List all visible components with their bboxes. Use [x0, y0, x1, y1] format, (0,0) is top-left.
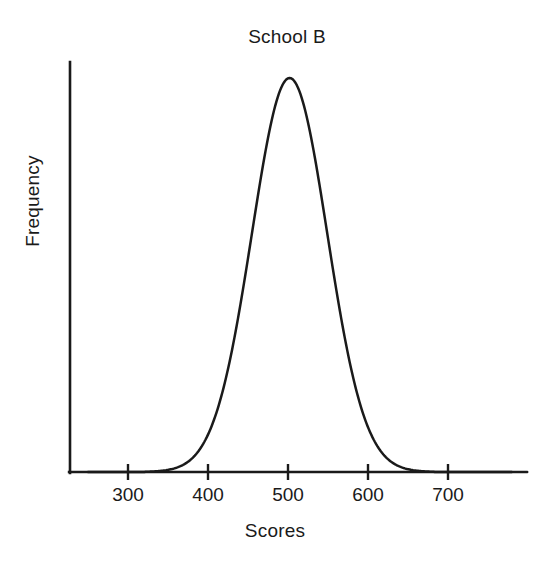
chart-figure: School B Frequency 300 400 500 600 700 S… — [0, 0, 538, 570]
x-tick-label: 400 — [192, 484, 224, 505]
x-axis-tick-labels: 300 400 500 600 700 — [112, 484, 464, 505]
x-tick-label: 300 — [112, 484, 144, 505]
x-tick-label: 500 — [272, 484, 304, 505]
plot-area: 300 400 500 600 700 — [0, 0, 538, 570]
x-axis-label: Scores — [6, 520, 538, 542]
x-tick-label: 600 — [352, 484, 384, 505]
distribution-curve — [88, 78, 527, 472]
x-axis-label-text: Scores — [245, 520, 305, 541]
x-tick-label: 700 — [432, 484, 464, 505]
